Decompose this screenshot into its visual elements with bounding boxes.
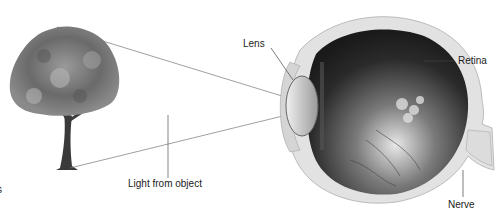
retina-label: Retina xyxy=(458,55,487,66)
cutoff-label: s xyxy=(0,184,2,195)
light-from-object-label: Light from object xyxy=(128,178,202,189)
nerve-label: Nerve xyxy=(448,199,475,210)
eye-cross-section xyxy=(280,17,494,203)
tree xyxy=(10,26,120,170)
eye-diagram xyxy=(0,0,499,213)
lens-label: Lens xyxy=(243,38,265,49)
